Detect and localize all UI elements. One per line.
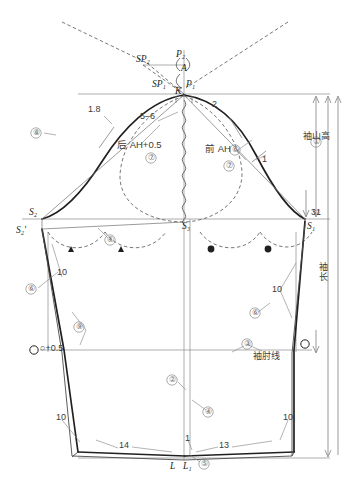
point-label-sp2: SP₂ [136,55,150,65]
step-number-3: ③ [244,340,251,348]
annotation-front-ah: 前 AH [205,144,231,154]
step-number-rings [26,128,321,469]
step-number-7-back: ⑦ [148,154,155,162]
step-number-6-left: ⑥ [28,285,35,293]
leader-lines [38,86,296,462]
measure-sleeve-left-upper: 10 [57,268,67,277]
point-label-s2-prime: S₂' [16,226,26,236]
open-circle-symbol [30,346,38,354]
step-number-7-front: ⑦ [226,162,233,170]
measure-hem-center-1: 1 [185,434,190,443]
point-label-s2: S₂ [29,208,37,218]
measure-sleeve-right-upper: 10 [272,285,282,294]
step-number-4-top: ④ [107,236,114,244]
step-number-2: ② [169,376,176,384]
measure-underarm-31: 31 [311,208,321,217]
step-number-9: ⑨ [76,323,83,331]
point-label-p2: P₂ [176,50,185,60]
dim-31-arrow [303,190,309,217]
point-label-s3: S₃ [182,222,190,232]
point-label-sp1: SP₁ [152,80,166,90]
step-number-6-cap: ⑥ [232,146,239,154]
annotation-back-ah: 后 AH+0.5 [117,140,162,150]
annotation-elbow-line: 袖肘线 [253,352,280,361]
elbow-arrow [313,330,319,353]
measure-circle-plus: ○+0.5 [40,344,63,353]
point-label-k: K [175,87,181,97]
step-number-4-bottom: ④ [205,408,212,416]
triangle-marker [118,246,124,252]
point-label-p1: P₁ [186,80,195,90]
dot-marker [265,246,272,253]
ease-markers [68,246,271,253]
measure-hem-right-width: 13 [219,441,229,450]
point-label-s1: S₁ [307,222,315,232]
step-number-8: ⑧ [33,129,40,137]
point-label-l: L [170,462,175,472]
sleeve-body-outline [42,221,305,456]
measure-cap-right-lower: 1 [262,155,267,164]
guide-lines [22,50,330,460]
measure-cap-right-offset: 2 [212,100,217,109]
sleeve-pattern-diagram: P₂ A SP₂ SP₁ P₁ K S₂ S₂' S₃ S₁ L L₁ 1.8 … [0,0,349,495]
measure-cap-top-seg: 5–6 [140,112,155,121]
measure-hem-left-10: 10 [56,413,66,422]
measure-hem-right-10: 10 [283,413,293,422]
diagram-canvas [0,0,349,495]
annotation-sleeve-length: 袖长 [318,262,327,282]
step-number-5: ⑤ [201,460,208,468]
open-circle-symbol-right [301,340,309,348]
dot-marker [208,246,215,253]
measure-hem-left-width: 14 [119,441,129,450]
point-label-a: A [181,64,187,74]
step-number-6-right: ⑥ [252,309,259,317]
measure-cap-left-offset: 1.8 [88,105,101,114]
point-label-l1: L₁ [183,462,192,472]
step-number-1: ① [313,138,320,146]
